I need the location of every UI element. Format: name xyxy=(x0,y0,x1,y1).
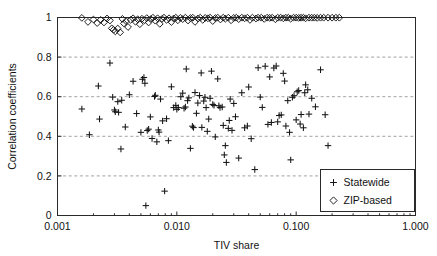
data-point-plus xyxy=(293,117,299,123)
data-point-plus xyxy=(144,127,150,133)
data-point-plus xyxy=(286,129,292,135)
data-point-plus xyxy=(298,111,304,117)
data-point-plus xyxy=(138,129,144,135)
data-point-plus xyxy=(214,76,220,82)
data-point-plus xyxy=(184,97,190,103)
data-point-plus xyxy=(252,166,258,172)
data-point-plus xyxy=(325,142,331,148)
data-point-plus xyxy=(288,157,294,163)
data-point-plus xyxy=(257,94,263,100)
data-point-plus xyxy=(96,116,102,122)
data-point-plus xyxy=(274,119,280,125)
data-point-plus xyxy=(157,96,163,102)
data-point-plus xyxy=(266,74,272,80)
data-point-plus xyxy=(199,124,205,130)
y-tick-label: 1 xyxy=(46,11,52,23)
data-point-plus xyxy=(295,87,301,93)
data-point-plus xyxy=(221,152,227,158)
data-point-plus xyxy=(118,146,124,152)
data-point-plus xyxy=(236,155,242,161)
data-point-plus xyxy=(182,104,188,110)
data-point-plus xyxy=(152,92,158,98)
data-point-plus xyxy=(130,78,136,84)
data-point-plus xyxy=(312,104,318,110)
x-tick-label: 0.100 xyxy=(283,220,309,232)
data-point-plus xyxy=(204,128,210,134)
data-point-plus xyxy=(201,98,207,104)
legend-label-statewide: Statewide xyxy=(344,176,390,188)
data-point-plus xyxy=(285,97,291,103)
data-point-plus xyxy=(168,84,174,90)
y-axis-title: Correlation coefficients xyxy=(6,63,18,170)
data-point-plus xyxy=(208,68,214,74)
data-point-plus xyxy=(115,98,121,104)
data-point-plus xyxy=(187,145,193,151)
data-point-plus xyxy=(145,126,151,132)
y-tick-label: 0.8 xyxy=(37,51,52,63)
data-point-plus xyxy=(226,117,232,123)
data-point-plus xyxy=(198,70,204,76)
y-tick-label: 0.6 xyxy=(37,90,52,102)
data-point-plus xyxy=(322,112,328,118)
data-point-plus xyxy=(309,95,315,101)
data-point-plus xyxy=(118,97,124,103)
scatter-plot-figure: 00.20.40.60.81 0.0010.0100.1001.000 TIV … xyxy=(0,0,437,256)
data-point-plus xyxy=(195,100,201,106)
data-point-plus xyxy=(220,122,226,128)
data-point-plus xyxy=(154,139,160,145)
data-point-plus xyxy=(79,106,85,112)
data-point-plus xyxy=(210,101,216,107)
legend-label-zip-based: ZIP-based xyxy=(344,194,393,206)
data-point-diamond xyxy=(94,20,101,27)
data-point-plus xyxy=(122,124,128,130)
data-point-plus xyxy=(289,94,295,100)
data-point-plus xyxy=(281,78,287,84)
chart-canvas: 00.20.40.60.81 0.0010.0100.1001.000 TIV … xyxy=(0,0,437,256)
data-point-plus xyxy=(245,84,251,90)
data-point-plus xyxy=(186,95,192,101)
data-point-plus xyxy=(165,137,171,143)
chart-legend: StatewideZIP-based xyxy=(321,170,415,212)
data-point-plus xyxy=(232,113,238,119)
x-tick-label: 1.000 xyxy=(402,220,428,232)
data-point-plus xyxy=(143,202,149,208)
x-tick-label: 0.001 xyxy=(44,220,70,232)
data-point-plus xyxy=(183,66,189,72)
data-point-plus xyxy=(300,125,306,131)
data-point-plus xyxy=(222,142,228,148)
data-point-plus xyxy=(206,116,212,122)
series-statewide-points xyxy=(79,60,332,209)
data-point-plus xyxy=(297,121,303,127)
y-tick-label: 0.2 xyxy=(37,170,52,182)
data-point-plus xyxy=(231,100,237,106)
data-point-plus xyxy=(151,93,157,99)
data-point-plus xyxy=(259,104,265,110)
data-point-plus xyxy=(161,188,167,194)
data-point-plus xyxy=(133,110,139,116)
data-point-plus xyxy=(317,67,323,73)
data-point-plus xyxy=(109,94,115,100)
y-axis-tick-labels: 00.20.40.60.81 xyxy=(37,11,52,221)
data-point-plus xyxy=(95,83,101,89)
data-point-plus xyxy=(107,60,113,66)
data-point-plus xyxy=(283,123,289,129)
data-point-plus xyxy=(207,95,213,101)
data-point-plus xyxy=(306,111,312,117)
data-point-plus xyxy=(86,132,92,138)
x-axis-tick-labels: 0.0010.0100.1001.000 xyxy=(44,220,428,232)
data-point-plus xyxy=(192,89,198,95)
data-point-plus xyxy=(291,93,297,99)
data-point-plus xyxy=(255,65,261,71)
x-tick-label: 0.010 xyxy=(164,220,190,232)
data-point-plus xyxy=(190,124,196,130)
data-point-plus xyxy=(239,90,245,96)
data-point-plus xyxy=(262,63,268,69)
data-point-plus xyxy=(302,90,308,96)
data-point-plus xyxy=(294,89,300,95)
data-point-plus xyxy=(223,159,229,165)
data-point-plus xyxy=(189,123,195,129)
data-point-plus xyxy=(181,105,187,111)
data-point-plus xyxy=(280,70,286,76)
data-point-plus xyxy=(212,134,218,140)
data-point-plus xyxy=(193,110,199,116)
